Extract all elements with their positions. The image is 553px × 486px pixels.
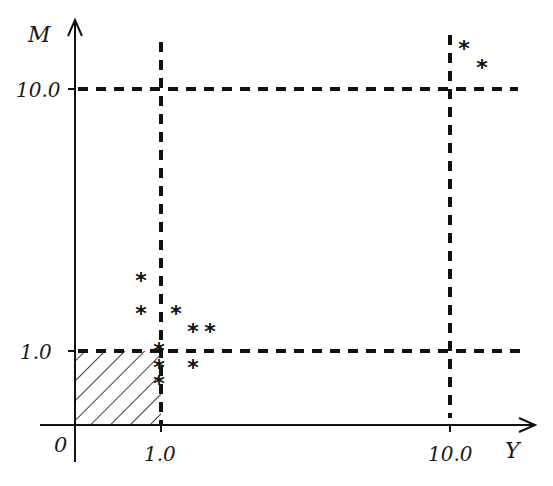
y-tick-label-1: 1.0: [20, 340, 52, 364]
star-marker-icon: *: [187, 319, 199, 344]
star-marker-icon: *: [476, 55, 488, 80]
x-tick-label-10: 10.0: [428, 442, 473, 466]
y-axis-label: M: [27, 22, 51, 47]
diagram-canvas: M Y 0 10.0 1.0 1.0 10.0 ***********: [0, 0, 553, 486]
star-marker-icon: *: [135, 268, 147, 293]
star-marker-icon: *: [458, 36, 470, 61]
star-marker-icon: *: [204, 319, 216, 344]
hatched-region: [75, 351, 161, 425]
x-axis-label: Y: [505, 438, 522, 463]
star-marker-icon: *: [135, 301, 147, 326]
y-tick-label-10: 10.0: [16, 78, 61, 102]
star-marker-icon: *: [170, 301, 182, 326]
origin-label: 0: [54, 433, 67, 457]
star-marker-icon: *: [187, 355, 199, 380]
star-marker-icon: *: [153, 371, 165, 396]
x-tick-label-1: 1.0: [144, 442, 176, 466]
